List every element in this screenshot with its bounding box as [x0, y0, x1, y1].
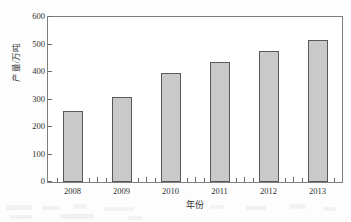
x-axis-tick [204, 178, 205, 182]
x-axis-tick [187, 178, 188, 182]
x-axis-tick [195, 177, 196, 182]
x-axis-tick-label: 2011 [211, 186, 228, 196]
y-axis-tick: 600 [48, 16, 52, 17]
x-axis-tick [57, 178, 58, 182]
bar-2009 [112, 97, 132, 182]
x-axis-tick [244, 177, 245, 182]
y-axis-tick-label: 0 [41, 176, 45, 186]
scan-artifact [6, 205, 32, 210]
y-axis-tick: 300 [48, 99, 52, 100]
y-axis-tick: 400 [48, 71, 52, 72]
plot-area: 0100200300400500600200820092010201120122… [47, 16, 343, 183]
bar-2010 [161, 73, 181, 182]
y-axis-tick-label: 300 [32, 94, 45, 104]
x-axis-tick-label: 2009 [113, 186, 130, 196]
x-axis-tick-label: 2013 [309, 186, 326, 196]
bar-2008 [63, 111, 83, 183]
scan-artifact [10, 215, 32, 219]
x-axis-tick [302, 178, 303, 182]
scan-artifact [60, 214, 94, 219]
bar-2013 [308, 40, 328, 182]
bar-2012 [259, 51, 279, 182]
x-axis-tick [236, 178, 237, 182]
x-axis-tick [253, 178, 254, 182]
y-axis-tick: 200 [48, 126, 52, 127]
y-axis-tick-label: 400 [32, 66, 45, 76]
y-axis-tick-label: 200 [32, 121, 45, 131]
bar-2011 [210, 62, 230, 182]
x-axis-tick [155, 178, 156, 182]
x-axis-title: 年份 [47, 198, 343, 211]
x-axis-tick [334, 178, 335, 182]
x-axis-tick-label: 2008 [64, 186, 81, 196]
x-axis-tick-label: 2012 [260, 186, 277, 196]
y-axis-tick: 0 [48, 181, 52, 182]
x-axis-tick-label: 2010 [162, 186, 179, 196]
x-axis-tick [293, 177, 294, 182]
x-axis-tick [97, 177, 98, 182]
y-axis-title: 产量/万吨 [9, 23, 21, 101]
y-axis-tick: 500 [48, 44, 52, 45]
scan-artifact [128, 216, 142, 220]
x-axis-tick [89, 178, 90, 182]
y-axis-tick: 100 [48, 154, 52, 155]
x-axis-tick [106, 178, 107, 182]
y-axis-tick-label: 600 [32, 11, 45, 21]
x-axis-tick [146, 177, 147, 182]
y-axis-tick-label: 100 [32, 149, 45, 159]
x-axis-tick [138, 178, 139, 182]
x-axis-tick [285, 178, 286, 182]
bar-chart-figure: 产量/万吨 0100200300400500600200820092010201… [0, 0, 351, 222]
y-axis-tick-label: 500 [32, 39, 45, 49]
